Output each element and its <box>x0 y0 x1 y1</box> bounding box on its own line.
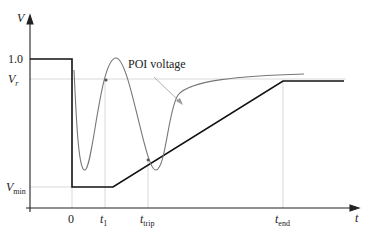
y-tick-1-0: 1.0 <box>8 53 23 65</box>
x-tick-tend: tend <box>275 213 290 228</box>
y-tick-vmin: Vmin <box>6 181 26 196</box>
annotation-leader <box>154 77 180 102</box>
x-tick-t1: t1 <box>100 213 107 228</box>
vr-crossing-marker <box>104 78 107 81</box>
x-tick-zero: 0 <box>68 213 74 225</box>
poi-voltage-curve <box>74 58 304 170</box>
trip-marker <box>147 159 150 162</box>
y-tick-vr: Vr <box>8 73 18 88</box>
x-axis-label: t <box>355 212 358 224</box>
poi-voltage-annotation: POI voltage <box>128 58 186 70</box>
gridlines <box>30 79 346 208</box>
diagram-canvas <box>0 0 368 230</box>
voltage-ride-through-diagram: V t 1.0 Vr Vmin 0 t1 ttrip tend POI volt… <box>0 0 368 230</box>
y-axis-arrow-icon <box>27 15 33 24</box>
y-axis-label: V <box>17 12 24 24</box>
x-tick-ttrip: ttrip <box>140 213 154 228</box>
